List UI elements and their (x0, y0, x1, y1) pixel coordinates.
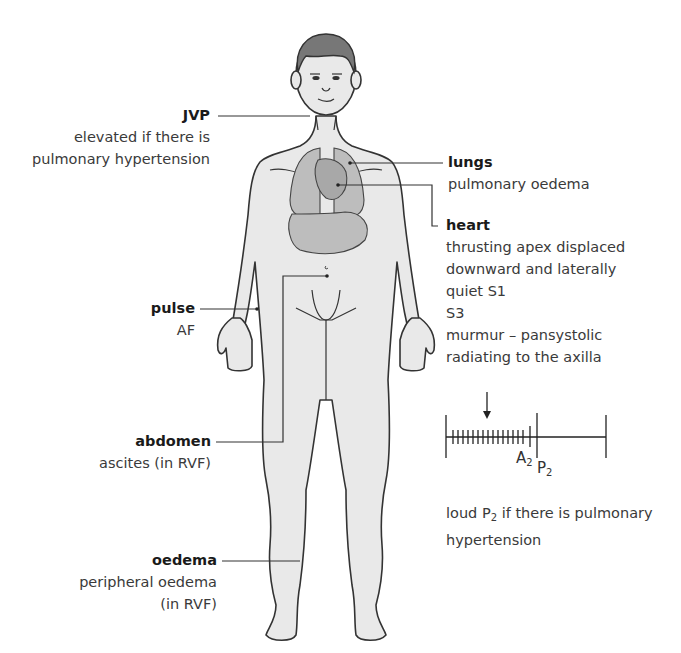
label-jvp-desc-1: elevated if there is (32, 126, 210, 148)
label-heart-desc-5: murmur – pansystolic (446, 324, 625, 346)
liver-stomach (289, 212, 368, 254)
label-loud-p2: loud P2 if there is pulmonary hypertensi… (446, 502, 653, 551)
label-abdomen-title: abdomen (99, 430, 211, 452)
label-jvp: JVP elevated if there is pulmonary hyper… (32, 104, 210, 170)
murmur-ticks (453, 430, 523, 444)
label-p2: P2 (537, 457, 552, 484)
a2-letter: A (516, 449, 526, 467)
p2-subscript: 2 (546, 467, 552, 478)
p2-letter: P (537, 459, 546, 477)
label-oedema-desc-1: peripheral oedema (79, 571, 217, 593)
label-abdomen-desc: ascites (in RVF) (99, 452, 211, 474)
label-oedema: oedema peripheral oedema (in RVF) (79, 549, 217, 615)
label-jvp-desc-2: pulmonary hypertension (32, 148, 210, 170)
loud-p2-prefix: loud P (446, 505, 491, 521)
label-heart-desc-1: thrusting apex displaced (446, 236, 625, 258)
loud-p2-suffix: if there is pulmonary (497, 505, 653, 521)
label-heart-desc-6: radiating to the axilla (446, 346, 625, 368)
arrow-head-icon (483, 411, 491, 419)
a2-subscript: 2 (526, 457, 532, 468)
label-a2: A2 (516, 447, 533, 474)
loud-p2-line-2: hypertension (446, 529, 653, 551)
label-pulse-desc: AF (151, 319, 195, 341)
label-heart: heart thrusting apex displaced downward … (446, 214, 625, 368)
label-pulse-title: pulse (151, 297, 195, 319)
label-lungs-desc: pulmonary oedema (448, 173, 590, 195)
label-pulse: pulse AF (151, 297, 195, 341)
label-lungs-title: lungs (448, 151, 590, 173)
label-heart-desc-3: quiet S1 (446, 280, 625, 302)
label-oedema-title: oedema (79, 549, 217, 571)
label-heart-desc-2: downward and laterally (446, 258, 625, 280)
label-oedema-desc-2: (in RVF) (79, 593, 217, 615)
label-heart-desc-4: S3 (446, 302, 625, 324)
label-lungs: lungs pulmonary oedema (448, 151, 590, 195)
label-jvp-title: JVP (32, 104, 210, 126)
loud-p2-line-1: loud P2 if there is pulmonary (446, 502, 653, 529)
label-heart-title: heart (446, 214, 625, 236)
label-abdomen: abdomen ascites (in RVF) (99, 430, 211, 474)
